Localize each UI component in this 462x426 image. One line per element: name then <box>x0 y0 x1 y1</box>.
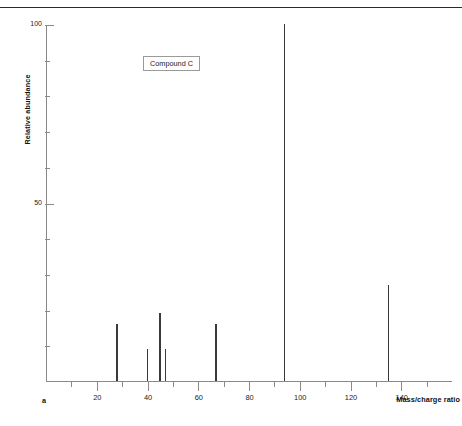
x-tick-minor <box>173 382 174 387</box>
y-tick-minor <box>45 311 50 312</box>
y-tick-major: 50 <box>45 204 54 205</box>
x-tick-minor <box>71 382 72 387</box>
y-tick-minor <box>45 96 50 97</box>
x-tick-major: 40 <box>148 382 149 391</box>
y-tick-minor <box>45 275 50 276</box>
spectrum-peak <box>284 24 285 381</box>
x-tick-minor <box>376 382 377 387</box>
x-tick-minor <box>274 382 275 387</box>
mass-spectrum-figure: Relative abundance 50100 204060801001201… <box>0 10 462 426</box>
x-tick-label: 120 <box>345 393 357 402</box>
x-tick-label: 80 <box>245 393 253 402</box>
panel-letter: a <box>42 396 46 405</box>
x-tick-major: 140 <box>401 382 402 391</box>
spectrum-peak <box>165 349 166 381</box>
x-tick-major: 120 <box>351 382 352 391</box>
x-tick-label: 20 <box>93 393 101 402</box>
x-tick-minor <box>224 382 225 387</box>
plot-area: 50100 20406080100120140 <box>46 25 452 382</box>
x-axis-title: Mass/charge ratio <box>396 395 460 404</box>
x-tick-minor <box>325 382 326 387</box>
y-axis-title: Relative abundance <box>23 50 32 170</box>
x-tick-minor <box>122 382 123 387</box>
spectrum-peak <box>116 324 117 381</box>
y-tick-label: 50 <box>34 199 42 206</box>
y-tick-major: 100 <box>45 25 54 26</box>
spectrum-peak <box>215 324 216 381</box>
y-tick-minor <box>45 168 50 169</box>
header-rule <box>0 7 462 8</box>
x-tick-label: 100 <box>294 393 306 402</box>
x-tick-minor <box>427 382 428 387</box>
spectrum-peak <box>159 313 160 381</box>
y-tick-minor <box>45 61 50 62</box>
x-tick-major: 100 <box>300 382 301 391</box>
compound-label-box: Compound C <box>143 56 200 71</box>
x-tick-major: 80 <box>249 382 250 391</box>
y-tick-minor <box>45 239 50 240</box>
figure-page: Relative abundance 50100 204060801001201… <box>0 0 462 426</box>
y-tick-minor <box>45 132 50 133</box>
x-tick-label: 40 <box>144 393 152 402</box>
y-tick-minor <box>45 346 50 347</box>
spectrum-peak <box>147 349 148 381</box>
x-tick-major: 60 <box>198 382 199 391</box>
spectrum-peak <box>388 285 389 381</box>
y-tick-label: 100 <box>30 20 42 27</box>
x-tick-label: 60 <box>195 393 203 402</box>
x-tick-major: 20 <box>97 382 98 391</box>
